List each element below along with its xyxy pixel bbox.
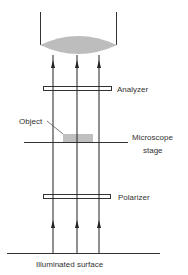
arrow-up-icon <box>97 60 101 68</box>
object-label: Object <box>19 117 43 126</box>
polarizer-label: Polarizer <box>118 193 150 202</box>
stage-label-line2: stage <box>143 146 163 155</box>
objective-lens <box>40 36 117 54</box>
stage-label-line1: Microscope <box>132 133 173 142</box>
arrow-up-icon <box>75 60 79 68</box>
illuminated-surface-label: Illuminated surface <box>36 260 104 269</box>
analyzer-label: Analyzer <box>117 85 148 94</box>
light-rays <box>53 55 99 253</box>
lower-arrowheads <box>51 220 101 228</box>
object-specimen <box>63 134 93 142</box>
object-leader-line <box>47 121 63 134</box>
upper-arrowheads <box>51 60 101 68</box>
polarizing-microscope-diagram: Analyzer Object Microscope stage Polariz… <box>0 0 188 275</box>
arrow-up-icon <box>97 220 101 228</box>
arrow-up-icon <box>75 220 79 228</box>
arrow-up-icon <box>51 220 55 228</box>
arrow-up-icon <box>51 60 55 68</box>
